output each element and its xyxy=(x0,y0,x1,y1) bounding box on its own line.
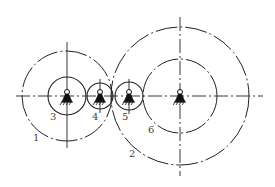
pivot-support-icon-gear-3 xyxy=(60,90,73,106)
label-3: 3 xyxy=(50,111,56,122)
label-1: 1 xyxy=(33,132,39,143)
label-2: 2 xyxy=(129,148,135,159)
gear-train-diagram: 1 3 4 5 6 2 xyxy=(0,0,275,187)
label-6: 6 xyxy=(148,124,154,135)
label-5: 5 xyxy=(122,111,128,122)
label-4: 4 xyxy=(92,111,98,122)
pivot-support-icon-gear-6 xyxy=(173,90,186,106)
pivot-support-icon-gear-5 xyxy=(122,90,135,106)
pivot-support-icon-gear-4 xyxy=(93,90,106,106)
